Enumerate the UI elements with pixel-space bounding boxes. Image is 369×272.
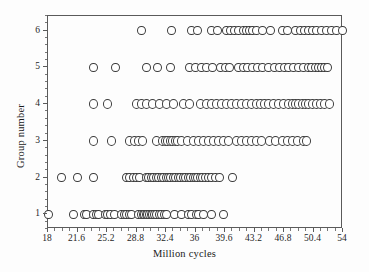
y-axis-minor-tick [45,74,48,75]
x-axis-tick-label: 43.2 [245,233,262,243]
y-axis-tick-label: 5 [28,61,40,71]
x-axis-tick-label: 25.2 [97,233,114,243]
data-point [325,99,334,109]
data-point [213,26,222,36]
data-point [185,99,194,109]
x-axis-minor-tick [99,228,100,231]
x-axis-tick [106,228,107,232]
data-point [69,210,78,220]
x-axis-minor-tick [180,228,181,231]
y-axis-minor-tick [45,191,48,192]
y-axis-tick [43,140,47,141]
y-axis-minor-tick [45,59,48,60]
x-axis-tick-label: 39.6 [215,233,232,243]
data-point [73,173,82,183]
y-axis-minor-tick [45,15,48,16]
x-axis-tick [165,228,166,232]
data-point [137,26,146,36]
x-axis-tick-label: 32.4 [156,233,173,243]
y-axis-minor-tick [45,199,48,200]
plot-area-frame [47,15,342,228]
x-axis-minor-tick [290,228,291,231]
y-axis-tick [43,177,47,178]
x-axis-minor-tick [209,228,210,231]
y-axis-minor-tick [45,96,48,97]
y-axis-minor-tick [45,206,48,207]
data-point [193,26,202,36]
y-axis-tick-label: 6 [28,25,40,35]
x-axis-minor-tick [268,228,269,231]
y-axis-minor-tick [45,162,48,163]
x-axis-tick-label: 18 [42,233,52,243]
y-axis-minor-tick [45,184,48,185]
x-axis-minor-tick [91,228,92,231]
x-axis-tick [254,228,255,232]
x-axis-minor-tick [158,228,159,231]
x-axis-minor-tick [327,228,328,231]
y-axis-tick-label: 1 [28,208,40,218]
x-axis-tick-label: 21.6 [68,233,85,243]
data-point [338,26,347,36]
x-axis-minor-tick [84,228,85,231]
x-axis-minor-tick [69,228,70,231]
y-axis-minor-tick [45,125,48,126]
x-axis-minor-tick [121,228,122,231]
x-axis-tick [77,228,78,232]
y-axis-tick [43,213,47,214]
data-point [57,173,66,183]
data-point [323,63,332,73]
x-axis-minor-tick [298,228,299,231]
data-point [89,173,98,183]
x-axis-minor-tick [143,228,144,231]
y-axis-minor-tick [45,155,48,156]
y-axis-minor-tick [45,110,48,111]
data-point [107,136,116,146]
x-axis-minor-tick [62,228,63,231]
y-axis-tick [43,103,47,104]
data-point [169,99,178,109]
x-axis-tick-label: 54 [337,233,347,243]
y-axis-minor-tick [45,88,48,89]
x-axis-minor-tick [128,228,129,231]
y-axis-tick-label: 2 [28,172,40,182]
x-axis-minor-tick [113,228,114,231]
x-axis-tick [342,228,343,232]
y-axis-minor-tick [45,22,48,23]
x-axis-minor-tick [202,228,203,231]
data-point [44,210,53,220]
data-point [207,210,216,220]
x-axis-minor-tick [54,228,55,231]
y-axis-tick-label: 4 [28,98,40,108]
data-point [266,26,275,36]
data-points-layer [48,16,341,227]
x-axis-tick [47,228,48,232]
x-axis-tick [195,228,196,232]
y-axis-minor-tick [45,118,48,119]
data-point [103,99,112,109]
data-point [167,26,176,36]
x-axis-minor-tick [335,228,336,231]
data-point [138,136,147,146]
y-axis-tick [43,30,47,31]
data-point [89,99,98,109]
x-axis-minor-tick [276,228,277,231]
y-axis-minor-tick [45,37,48,38]
y-axis-minor-tick [45,133,48,134]
x-axis-minor-tick [246,228,247,231]
y-axis-minor-tick [45,52,48,53]
x-axis-minor-tick [231,228,232,231]
data-point [153,63,162,73]
x-axis-minor-tick [320,228,321,231]
scatter-chart-figure: 1821.625.228.832.43639.643.246.850.454 1… [0,0,369,272]
y-axis-minor-tick [45,169,48,170]
data-point [302,136,311,146]
data-point [111,63,120,73]
x-axis-minor-tick [305,228,306,231]
y-axis-tick-label: 3 [28,135,40,145]
x-axis-title: Million cycles [0,248,369,259]
y-axis-tick [43,66,47,67]
y-axis-minor-tick [45,221,48,222]
x-axis-minor-tick [239,228,240,231]
x-axis-tick-label: 46.8 [274,233,291,243]
x-axis-tick-label: 36 [190,233,200,243]
